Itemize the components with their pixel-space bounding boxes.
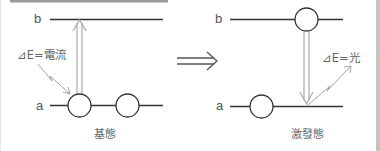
electron-circle [68, 94, 91, 117]
level-b-label: b [215, 11, 222, 26]
energy-input-label: ⊿E=電流 [17, 48, 67, 62]
ground-state-caption: 基態 [94, 127, 116, 141]
level-a-label: a [216, 98, 224, 113]
left-frame-line [0, 0, 1, 151]
electron-circle [250, 95, 273, 118]
lightning-arrow-icon [38, 64, 70, 94]
emission-arrow-down-icon [300, 31, 313, 104]
electron-circle [116, 94, 139, 117]
excitation-arrow-up-icon [73, 20, 86, 94]
transition-double-arrow-icon [177, 52, 217, 70]
level-a-label: a [36, 98, 44, 113]
excited-state-caption: 激發態 [291, 127, 324, 141]
energy-transition-diagram: b a ⊿E=電流 基態 b a [0, 0, 380, 151]
right-frame-bar [376, 0, 380, 151]
level-b-label: b [34, 11, 41, 26]
top-frame-bar [10, 0, 168, 3]
electron-circle [295, 8, 318, 31]
excited-state-panel: b a ⊿E=光 激發態 [215, 8, 361, 141]
ground-state-panel: b a ⊿E=電流 基態 [17, 11, 163, 141]
lightning-arrow-icon [308, 66, 351, 105]
energy-output-label: ⊿E=光 [322, 51, 361, 65]
